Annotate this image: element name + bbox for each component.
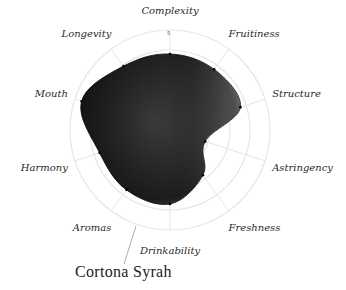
axis-label-complexity: Complexity bbox=[141, 5, 199, 16]
chart-title: Cortona Syrah bbox=[75, 263, 172, 281]
data-point bbox=[213, 68, 216, 71]
data-point bbox=[125, 189, 128, 192]
axis-label-mouth: Mouth bbox=[34, 88, 68, 99]
axis-label-structure: Structure bbox=[272, 88, 321, 99]
axis-label-aromas: Aromas bbox=[72, 222, 112, 233]
data-point bbox=[98, 152, 101, 155]
axis-label-drinkability: Drinkability bbox=[139, 245, 200, 256]
data-point bbox=[202, 174, 205, 177]
title-leader-line bbox=[124, 226, 136, 264]
data-point bbox=[204, 140, 207, 143]
data-point bbox=[122, 65, 125, 68]
tick-label: 5 bbox=[167, 30, 170, 36]
axis-label-fruitiness: Fruitiness bbox=[228, 28, 280, 39]
axis-label-harmony: Harmony bbox=[20, 162, 68, 173]
data-point bbox=[239, 106, 242, 109]
radar-chart: 5 ComplexityFruitinessStructureAstringen… bbox=[0, 0, 346, 290]
axis-label-astringency: Astringency bbox=[271, 162, 333, 173]
data-point bbox=[80, 100, 83, 103]
data-point bbox=[169, 53, 172, 56]
axis-label-freshness: Freshness bbox=[228, 222, 281, 233]
data-area bbox=[80, 53, 241, 206]
data-point bbox=[169, 203, 172, 206]
axis-label-longevity: Longevity bbox=[61, 28, 112, 39]
